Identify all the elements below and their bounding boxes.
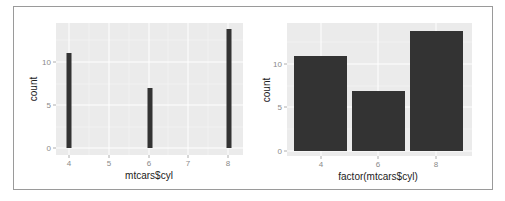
left-ytick-10: 10 <box>42 58 51 67</box>
right-bar-4 <box>294 56 347 151</box>
left-ytick-5: 5 <box>47 101 52 110</box>
left-bar-6 <box>148 88 153 148</box>
left-x-axis-title: mtcars$cyl <box>125 170 173 181</box>
left-bar-4 <box>67 53 72 148</box>
right-xtick-8: 8 <box>434 160 439 169</box>
left-xtick-7: 7 <box>186 159 191 168</box>
figure-canvas: 0 5 10 4 5 6 7 8 mtcars$cyl count <box>0 0 505 201</box>
right-bar-6 <box>352 91 405 151</box>
right-xtick-4: 4 <box>319 160 324 169</box>
left-xtick-6: 6 <box>147 159 152 168</box>
left-xtick-5: 5 <box>107 159 112 168</box>
right-y-axis-title: count <box>261 78 272 103</box>
right-ytick-5: 5 <box>278 103 283 112</box>
left-bar-8 <box>227 29 232 148</box>
left-xtick-8: 8 <box>226 159 231 168</box>
left-ytick-0: 0 <box>47 144 52 153</box>
right-ytick-10: 10 <box>273 60 282 69</box>
right-x-axis-title: factor(mtcars$cyl) <box>338 171 417 182</box>
right-xtick-6: 6 <box>376 160 381 169</box>
right-bar-8 <box>410 31 463 151</box>
right-ytick-0: 0 <box>278 147 283 156</box>
left-plot: 0 5 10 4 5 6 7 8 mtcars$cyl count <box>28 23 243 181</box>
right-plot: 0 5 10 4 6 8 factor(mtcars$cyl) count <box>261 23 472 182</box>
left-y-axis-title: count <box>28 77 39 102</box>
left-xtick-4: 4 <box>67 159 72 168</box>
